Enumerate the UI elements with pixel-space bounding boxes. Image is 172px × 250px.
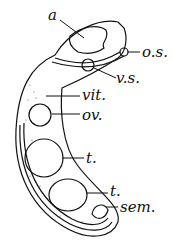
label-sem: sem. <box>120 198 156 216</box>
label-vit: vit. <box>82 86 106 104</box>
anatomical-diagram: a o.s. v.s. vit. ov. t. t. sem. <box>0 0 172 250</box>
label-vs: v.s. <box>116 69 140 87</box>
label-t1: t. <box>86 149 97 167</box>
label-ov: ov. <box>82 106 103 124</box>
label-a: a <box>48 6 57 24</box>
label-os: o.s. <box>142 43 168 61</box>
organism-outline <box>16 21 128 236</box>
